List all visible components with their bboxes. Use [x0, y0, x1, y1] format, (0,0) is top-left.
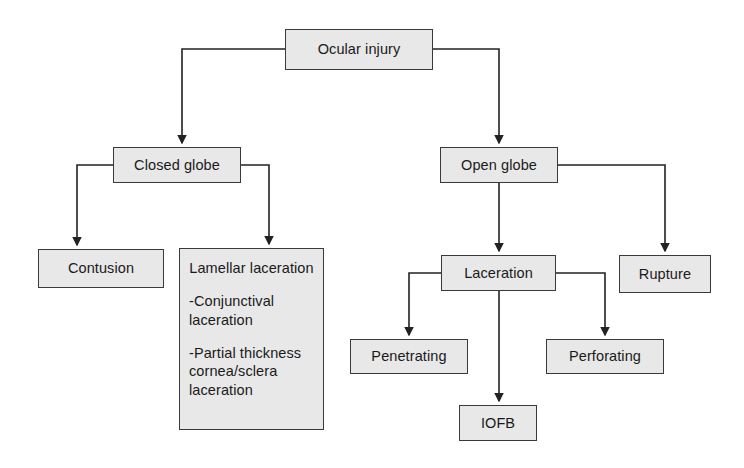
node-ocular-injury: Ocular injury: [285, 29, 433, 70]
node-bullet-conjunctival-laceration: -Conjunctival laceration: [189, 292, 314, 330]
node-contusion: Contusion: [38, 249, 164, 288]
node-label: Ocular injury: [318, 40, 401, 58]
node-title: Lamellar laceration: [189, 259, 314, 278]
node-label: IOFB: [481, 414, 515, 432]
node-perforating: Perforating: [546, 339, 664, 374]
node-label: Penetrating: [371, 347, 446, 365]
node-open-globe: Open globe: [440, 147, 558, 183]
node-rupture: Rupture: [619, 255, 711, 293]
node-label: Contusion: [68, 259, 134, 277]
edge-open-globe-to-rupture: [558, 165, 665, 251]
node-iofb: IOFB: [459, 405, 537, 441]
node-penetrating: Penetrating: [350, 339, 468, 374]
edge-closed-globe-to-lamellar-laceration: [241, 165, 269, 244]
node-label: Laceration: [464, 264, 533, 282]
edge-laceration-to-penetrating: [409, 273, 441, 335]
edge-laceration-to-perforating: [556, 273, 605, 335]
flowchart-edges: [0, 0, 744, 468]
node-bullet-partial-thickness-laceration: -Partial thickness cornea/sclera lacerat…: [189, 344, 314, 401]
node-label: Open globe: [461, 156, 537, 174]
flowchart-canvas: Ocular injury Closed globe Open globe Co…: [0, 0, 744, 468]
edge-ocular-injury-to-open-globe: [433, 49, 499, 143]
node-lamellar-laceration: Lamellar laceration -Conjunctival lacera…: [179, 248, 324, 430]
node-label: Closed globe: [134, 156, 220, 174]
edge-ocular-injury-to-closed-globe: [182, 49, 285, 143]
node-label: Perforating: [569, 347, 641, 365]
node-laceration: Laceration: [441, 255, 556, 291]
node-closed-globe: Closed globe: [113, 147, 241, 183]
node-label: Rupture: [639, 265, 691, 283]
edge-closed-globe-to-contusion: [77, 165, 113, 245]
